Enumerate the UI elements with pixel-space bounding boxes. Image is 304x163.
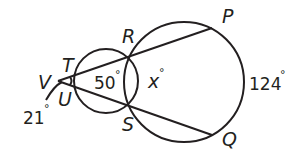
label-V: V bbox=[38, 71, 53, 93]
label-P: P bbox=[222, 5, 234, 27]
label-Q: Q bbox=[222, 128, 237, 150]
label-U: U bbox=[58, 88, 72, 110]
label-R: R bbox=[122, 25, 135, 47]
label-S: S bbox=[122, 113, 134, 135]
degree-50: ° bbox=[115, 68, 121, 81]
measure-50: 50 bbox=[94, 73, 116, 93]
angle-arc-V bbox=[70, 77, 72, 85]
degree-21: ° bbox=[44, 102, 50, 115]
measure-124: 124 bbox=[249, 74, 281, 94]
secant-VQ bbox=[58, 81, 212, 135]
degree-x: ° bbox=[159, 66, 165, 79]
degree-124: ° bbox=[280, 68, 286, 81]
geometry-diagram: V T U R S P Q 21 ° 50 ° x ° 124 ° bbox=[0, 0, 304, 163]
large-circle bbox=[124, 22, 244, 142]
label-T: T bbox=[62, 54, 75, 76]
measure-21: 21 bbox=[23, 108, 45, 128]
